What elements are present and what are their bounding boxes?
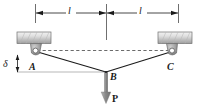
pin-joint-right — [167, 44, 178, 55]
support-block-left — [17, 32, 51, 44]
pin-joint-right-hole — [170, 48, 175, 53]
pin-joint-left — [31, 44, 42, 55]
deflection-label-delta: δ — [3, 59, 8, 69]
dimension-arrowhead-right-outer — [171, 11, 178, 15]
deflection-dimension-group — [16, 55, 20, 73]
dimension-arrowhead-left-inner — [99, 11, 106, 15]
member-ab — [36, 52, 106, 73]
load-label-p: P — [112, 94, 118, 104]
support-block-right-body — [158, 32, 192, 44]
dimension-arrowhead-left-outer — [36, 11, 43, 15]
member-bc — [106, 52, 172, 73]
node-label-b: B — [110, 72, 117, 82]
figure-canvas — [0, 0, 202, 112]
dimension-label-right: l — [139, 6, 142, 16]
node-label-a: A — [29, 62, 36, 72]
dimension-arrowhead-right-inner — [107, 11, 114, 15]
deflection-arrowhead-up — [16, 55, 20, 61]
load-arrowhead — [101, 92, 111, 104]
dimension-group — [36, 4, 179, 40]
dimension-label-left: l — [68, 6, 71, 16]
truss-deflection-figure: l l δ A B C P — [0, 0, 202, 112]
node-label-c: C — [167, 62, 174, 72]
joint-b-marker — [105, 71, 107, 73]
support-block-right — [158, 32, 192, 44]
support-block-left-body — [17, 32, 51, 44]
pin-joint-left-hole — [33, 48, 38, 53]
